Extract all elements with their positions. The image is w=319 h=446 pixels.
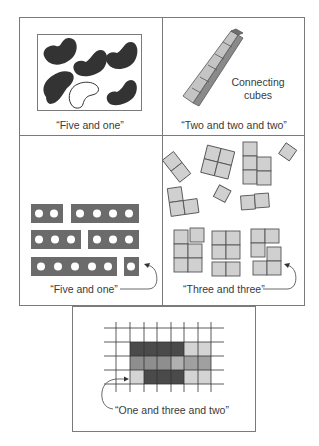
arrowhead-icon — [124, 377, 129, 382]
shaded-grid-illustration — [0, 0, 319, 446]
grid-caption: “One and three and two” — [112, 404, 232, 416]
grid-shading-cells — [130, 342, 211, 384]
